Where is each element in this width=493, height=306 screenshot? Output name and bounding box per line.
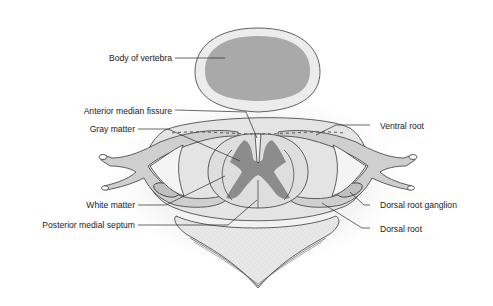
- spinal-cord: [208, 134, 308, 208]
- label-dorsal-root: Dorsal root: [380, 224, 423, 234]
- label-anterior-median-fissure: Anterior median fissure: [84, 106, 173, 116]
- label-white-matter: White matter: [86, 200, 135, 210]
- label-body-of-vertebra: Body of vertebra: [109, 53, 172, 63]
- spinal-cord-cross-section-diagram: Body of vertebra Anterior median fissure…: [0, 0, 493, 306]
- label-posterior-medial-septum: Posterior medial septum: [42, 220, 135, 230]
- label-gray-matter: Gray matter: [90, 124, 136, 134]
- label-dorsal-root-ganglion: Dorsal root ganglion: [380, 200, 457, 210]
- vertebra-body: [195, 28, 320, 112]
- label-ventral-root: Ventral root: [380, 121, 425, 131]
